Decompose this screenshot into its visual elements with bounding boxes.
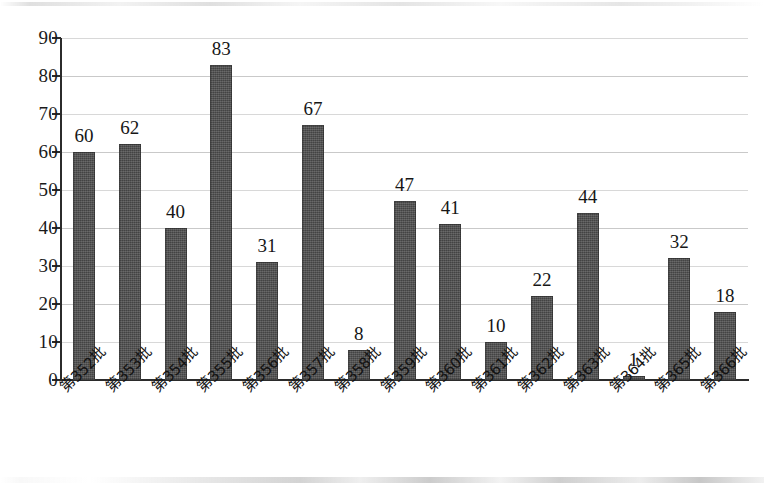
y-tick-label-90: 90 [18, 28, 58, 47]
gridline-80 [61, 76, 748, 77]
bar-value-label: 67 [290, 99, 336, 118]
y-tick-label-70: 70 [18, 104, 58, 123]
bar-value-label: 83 [198, 39, 244, 58]
y-tick-label-30: 30 [18, 256, 58, 275]
y-tick-label-50: 50 [18, 180, 58, 199]
gridline-70 [61, 114, 748, 115]
bar-value-label: 32 [656, 232, 702, 251]
bar-value-label: 8 [336, 324, 382, 343]
y-tick-label-0: 0 [18, 370, 58, 389]
bar-value-label: 31 [244, 236, 290, 255]
gridline-90 [61, 38, 748, 39]
bar [119, 144, 141, 380]
bar [210, 65, 232, 380]
gridline-60 [61, 152, 748, 153]
y-tick-label-20: 20 [18, 294, 58, 313]
bar-value-label: 22 [519, 270, 565, 289]
bar-value-label: 41 [427, 198, 473, 217]
y-tick-label-60: 60 [18, 142, 58, 161]
y-tick-label-80: 80 [18, 66, 58, 85]
bar [73, 152, 95, 380]
bar-value-label: 18 [702, 286, 748, 305]
y-axis-line [60, 38, 62, 381]
bar [302, 125, 324, 380]
bar-value-label: 47 [382, 175, 428, 194]
bar-value-label: 44 [565, 187, 611, 206]
y-tick-label-10: 10 [18, 332, 58, 351]
bar-value-label: 40 [153, 202, 199, 221]
scan-artifact-bottom-edge [0, 477, 764, 483]
bar-value-label: 60 [61, 126, 107, 145]
bar-value-label: 10 [473, 316, 519, 335]
y-tick-label-40: 40 [18, 218, 58, 237]
bar-value-label: 62 [107, 118, 153, 137]
scan-artifact-top-edge [0, 2, 764, 6]
bar-chart-figure: 9080706050403020100 60624083316784741102… [0, 0, 764, 483]
